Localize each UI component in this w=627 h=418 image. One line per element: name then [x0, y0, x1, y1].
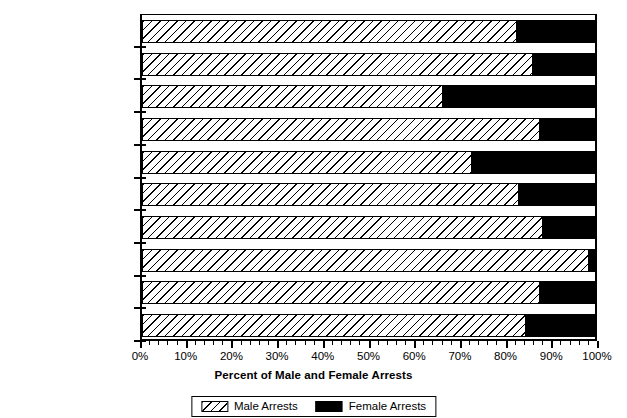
x-axis-minor-tick: [387, 341, 388, 345]
x-axis-minor-tick: [222, 341, 223, 345]
x-axis-major-tick: [506, 341, 508, 348]
black-swatch-icon: [316, 401, 343, 412]
bar-track: [142, 151, 595, 174]
x-axis-major-tick: [323, 341, 325, 348]
x-axis-major-tick: [551, 341, 553, 348]
bar-track: [142, 118, 595, 141]
bar-row: [142, 118, 595, 141]
bar-segment-female: [471, 151, 595, 174]
x-axis-minor-tick: [268, 341, 269, 345]
x-axis-minor-tick: [432, 341, 433, 345]
bar-segment-female: [518, 183, 595, 206]
bar-segment-female: [588, 249, 595, 272]
x-axis-tick-label: 20%: [220, 350, 243, 362]
x-axis-minor-tick: [396, 341, 397, 345]
y-axis-tick: [134, 144, 146, 146]
x-axis-minor-tick: [588, 341, 589, 345]
x-axis-minor-tick: [442, 341, 443, 345]
bar-row: [142, 314, 595, 337]
bar-segment-male: [142, 281, 539, 304]
x-axis-major-tick: [231, 341, 233, 348]
x-axis-minor-tick: [332, 341, 333, 345]
x-axis-minor-tick: [204, 341, 205, 345]
hatched-swatch-icon: [201, 401, 228, 412]
x-axis-minor-tick: [487, 341, 488, 345]
x-axis-minor-tick: [350, 341, 351, 345]
x-axis-major-tick: [460, 341, 462, 348]
bar-segment-female: [532, 53, 595, 76]
legend-label-female: Female Arrests: [349, 400, 426, 412]
y-axis-tick: [134, 242, 146, 244]
x-axis-minor-tick: [341, 341, 342, 345]
x-axis-minor-tick: [295, 341, 296, 345]
x-axis-minor-tick: [250, 341, 251, 345]
bar-track: [142, 20, 595, 43]
bar-segment-male: [142, 249, 588, 272]
x-axis-minor-tick: [177, 341, 178, 345]
x-axis-tick-label: 100%: [582, 350, 611, 362]
x-axis-minor-tick: [560, 341, 561, 345]
x-axis-major-tick: [277, 341, 279, 348]
bar-segment-female: [539, 281, 595, 304]
y-axis-tick: [134, 46, 146, 48]
plot-area: [140, 14, 597, 341]
x-axis-major-tick: [414, 341, 416, 348]
bar-segment-male: [142, 118, 539, 141]
x-axis-minor-tick: [469, 341, 470, 345]
bar-track: [142, 281, 595, 304]
x-axis-major-tick: [186, 341, 188, 348]
bar-segment-male: [142, 216, 542, 239]
bar-row: [142, 85, 595, 108]
x-axis-tick-label: 60%: [403, 350, 426, 362]
bar-row: [142, 183, 595, 206]
bar-track: [142, 183, 595, 206]
bar-segment-male: [142, 151, 471, 174]
bar-track: [142, 53, 595, 76]
x-axis-minor-tick: [305, 341, 306, 345]
bar-row: [142, 53, 595, 76]
legend-entry-female: Female Arrests: [316, 400, 426, 412]
x-axis-minor-tick: [286, 341, 287, 345]
y-axis-tick: [134, 209, 146, 211]
x-axis-minor-tick: [405, 341, 406, 345]
x-axis-minor-tick: [533, 341, 534, 345]
x-axis-minor-tick: [259, 341, 260, 345]
legend-entry-male: Male Arrests: [201, 400, 298, 412]
x-axis-minor-tick: [359, 341, 360, 345]
x-axis-minor-tick: [149, 341, 150, 345]
x-axis-minor-tick: [451, 341, 452, 345]
bar-segment-male: [142, 53, 532, 76]
bar-segment-male: [142, 20, 516, 43]
bar-segment-male: [142, 85, 442, 108]
bar-segment-female: [542, 216, 595, 239]
x-axis-minor-tick: [378, 341, 379, 345]
x-axis-tick-label: 50%: [357, 350, 380, 362]
x-axis-minor-tick: [515, 341, 516, 345]
x-axis-minor-tick: [542, 341, 543, 345]
x-axis-major-tick: [140, 341, 142, 348]
y-axis-tick: [134, 111, 146, 113]
x-axis-minor-tick: [524, 341, 525, 345]
bar-track: [142, 249, 595, 272]
x-axis-minor-tick: [423, 341, 424, 345]
chart-legend: Male Arrests Female Arrests: [191, 396, 436, 417]
x-axis-minor-tick: [478, 341, 479, 345]
bar-row: [142, 20, 595, 43]
bar-segment-male: [142, 314, 525, 337]
x-axis-minor-tick: [213, 341, 214, 345]
bar-track: [142, 314, 595, 337]
bar-segment-female: [442, 85, 595, 108]
x-axis-major-tick: [369, 341, 371, 348]
x-axis-tick-label: 70%: [448, 350, 471, 362]
y-axis-tick: [134, 307, 146, 309]
x-axis-title: Percent of Male and Female Arrests: [0, 369, 627, 381]
x-axis-minor-tick: [570, 341, 571, 345]
bar-row: [142, 281, 595, 304]
x-axis-minor-tick: [195, 341, 196, 345]
x-axis-tick-label: 0%: [132, 350, 149, 362]
x-axis-tick-label: 30%: [266, 350, 289, 362]
x-axis-tick-label: 90%: [540, 350, 563, 362]
legend-label-male: Male Arrests: [234, 400, 298, 412]
bar-segment-female: [525, 314, 595, 337]
x-axis-minor-tick: [314, 341, 315, 345]
